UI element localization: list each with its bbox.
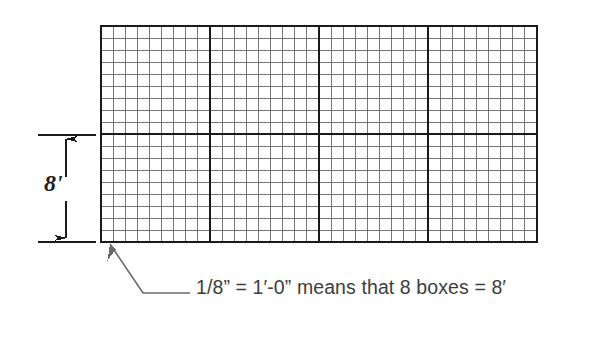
scale-caption: 1/8” = 1′-0” means that 8 boxes = 8′ [196, 276, 506, 299]
figure-canvas: 8' 1/8” = 1′-0” means that 8 boxes = 8′ [0, 0, 601, 340]
dimension-label-8ft: 8' [44, 170, 63, 197]
